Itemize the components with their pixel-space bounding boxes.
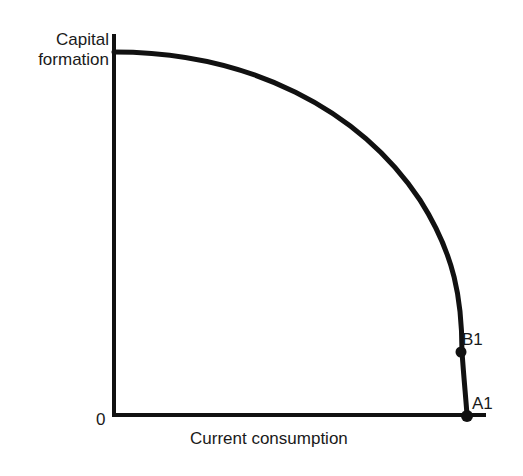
y-axis-label-line1: Capital <box>38 30 109 50</box>
ppf-diagram <box>0 0 523 476</box>
x-axis-label: Current consumption <box>190 429 348 449</box>
production-possibility-curve <box>114 52 467 415</box>
origin-label: 0 <box>96 410 105 430</box>
point-a1-label: A1 <box>472 394 493 414</box>
y-axis-label-line2: formation <box>38 50 109 70</box>
point-b1-label: B1 <box>462 330 483 350</box>
y-axis-label: Capital formation <box>38 30 109 70</box>
